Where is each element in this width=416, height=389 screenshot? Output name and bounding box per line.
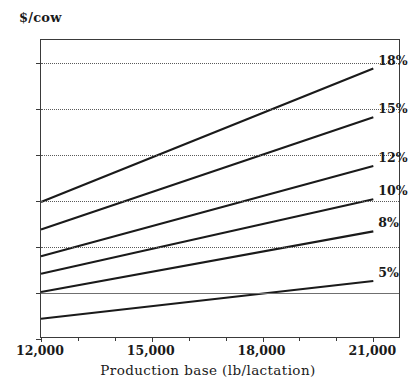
gridline-y-250: [41, 63, 399, 64]
x-minor-tick-14000: [115, 337, 116, 341]
series-label-18pct: 18%: [378, 53, 407, 68]
series-label-10pct: 10%: [378, 183, 407, 198]
gridline-y-150: [41, 155, 399, 156]
y-tick-mark-100: [36, 201, 41, 202]
y-tick-mark-50: [36, 247, 41, 248]
x-tick-mark-15000: [152, 337, 153, 342]
x-minor-tick-16000: [189, 337, 190, 341]
y-tick-mark-200: [36, 109, 41, 110]
series-line-5pct: [41, 281, 373, 319]
series-lines-svg: [41, 40, 401, 339]
x-tick-label-18000: 18,000: [238, 343, 286, 358]
gridline-y-100: [41, 201, 399, 202]
y-tick-mark-0: [36, 293, 41, 294]
gridline-y-200: [41, 109, 399, 110]
y-tick-mark-250: [36, 63, 41, 64]
x-tick-label-12000: 12,000: [16, 343, 64, 358]
series-label-15pct: 15%: [378, 101, 407, 116]
series-label-5pct: 5%: [378, 265, 399, 280]
series-lines-group: [41, 69, 373, 319]
y-tick-mark-150: [36, 155, 41, 156]
x-minor-tick-20000: [336, 337, 337, 341]
x-tick-label-15000: 15,000: [127, 343, 175, 358]
x-axis-title: Production base (lb/lactation): [0, 362, 416, 378]
y-axis-title: $/cow: [19, 10, 62, 25]
series-label-12pct: 12%: [378, 150, 407, 165]
chart-figure: $/cow -5005010015020025012,00015,00018,0…: [0, 0, 416, 389]
x-tick-mark-18000: [263, 337, 264, 342]
x-minor-tick-21000: [373, 337, 374, 341]
x-minor-tick-19000: [299, 337, 300, 341]
gridline-y-50: [41, 247, 399, 248]
x-minor-tick-13000: [78, 337, 79, 341]
x-tick-mark-12000: [41, 337, 42, 342]
plot-area: [40, 39, 400, 338]
zero-reference-line: [41, 293, 399, 294]
series-label-8pct: 8%: [378, 215, 399, 230]
x-tick-label-21000: 21,000: [348, 343, 396, 358]
x-minor-tick-17000: [226, 337, 227, 341]
